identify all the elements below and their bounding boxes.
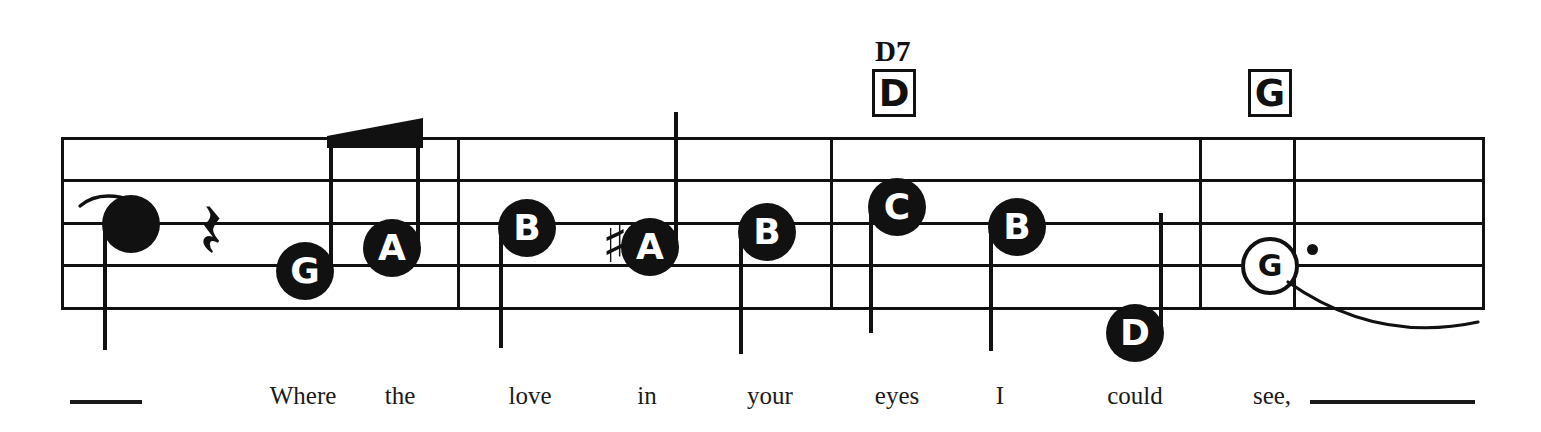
lyric-word: the <box>385 382 416 410</box>
note-stem <box>103 224 107 350</box>
staff-line-1 <box>62 137 1483 140</box>
sheet-music-page: GABABCBDG 𝄽 ♯ D7DG Wheretheloveinyoureye… <box>0 0 1541 432</box>
augmentation-dot <box>1307 244 1318 255</box>
barline-4 <box>1199 137 1202 310</box>
ext-left <box>70 400 142 404</box>
note-stem <box>499 228 503 348</box>
note-stem <box>1159 213 1163 333</box>
lyric-word: in <box>637 382 656 410</box>
sharp-accidental-icon: ♯ <box>602 217 628 271</box>
outgoing-tie <box>1286 278 1486 340</box>
barline-3 <box>830 137 833 310</box>
note-stem <box>329 137 333 271</box>
note-stem <box>739 232 743 354</box>
note-head-a: A <box>621 218 679 276</box>
chord-box-d[interactable]: D <box>872 69 916 117</box>
note-head-b: B <box>738 203 796 261</box>
chord-superscript: D7 <box>875 35 910 68</box>
lyric-word: could <box>1107 382 1163 410</box>
lyric-word: Where <box>270 382 337 410</box>
lyric-word: love <box>508 382 551 410</box>
note-head-b: B <box>988 198 1046 256</box>
note-head-c: C <box>868 178 926 236</box>
barline-1 <box>61 137 64 310</box>
ext-right <box>1310 400 1475 404</box>
quarter-rest-icon: 𝄽 <box>199 192 223 270</box>
note-head-a: A <box>363 219 421 277</box>
lyric-word: I <box>996 382 1004 410</box>
lyric-word: eyes <box>875 382 919 410</box>
note-stem <box>989 227 993 351</box>
incoming-tie <box>78 188 148 220</box>
note-stem <box>869 207 873 333</box>
barline-2 <box>457 137 460 310</box>
staff-line-2 <box>62 179 1483 182</box>
chord-box-g[interactable]: G <box>1248 69 1292 117</box>
eighth-note-beam <box>327 118 423 148</box>
lyric-word: your <box>747 382 793 410</box>
note-head-b: B <box>498 199 556 257</box>
note-head-g: G <box>276 242 334 300</box>
staff-line-5 <box>62 307 1483 310</box>
note-stem <box>674 112 678 247</box>
note-head-d: D <box>1106 304 1164 362</box>
lyric-word: see, <box>1253 382 1291 410</box>
